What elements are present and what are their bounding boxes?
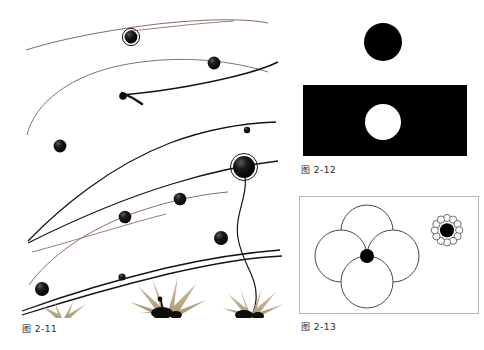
dot-ringed-top	[125, 31, 138, 44]
dot-large	[233, 156, 255, 178]
circle-bottom	[341, 256, 393, 308]
dot-a	[208, 57, 221, 70]
black-disc-on-white	[364, 23, 402, 61]
figure-2-12-illustration	[298, 8, 478, 158]
figure-2-13-caption: 图 2-13	[301, 320, 336, 333]
ring-center-dot	[440, 223, 454, 237]
center-dot	[360, 249, 374, 263]
dot-b	[244, 127, 250, 133]
dot-d	[174, 193, 187, 206]
figure-2-12-caption: 图 2-12	[301, 163, 336, 176]
white-disc-in-black	[365, 104, 401, 140]
figure-2-13-illustration	[299, 196, 479, 314]
dot-h	[118, 273, 125, 280]
figure-page: 图 2-11 图 2-12	[0, 0, 484, 350]
figure-2-11-caption: 图 2-11	[22, 322, 57, 335]
dot-f	[214, 231, 228, 245]
dot-e	[119, 211, 132, 224]
figure-2-11-illustration	[0, 0, 292, 318]
dot-i	[119, 92, 127, 100]
ring-circle-12	[437, 216, 444, 223]
dot-g	[35, 282, 49, 296]
dot-c	[54, 140, 67, 153]
